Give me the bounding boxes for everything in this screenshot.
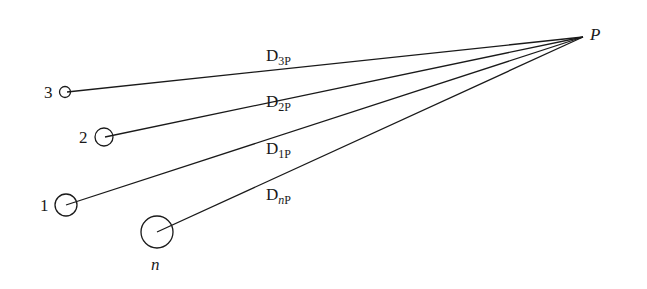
- distance-label-dnp: DnP: [266, 185, 291, 207]
- distance-sub-to: P: [284, 193, 291, 207]
- line-3-to-p: [67, 37, 583, 92]
- distance-sub-to: P: [284, 147, 291, 161]
- conductor-1-label: 1: [40, 196, 49, 215]
- point-p-label: P: [589, 25, 600, 44]
- distance-sub-to: P: [284, 54, 291, 68]
- line-1-to-p: [66, 37, 583, 205]
- conductor-n-label: n: [151, 255, 160, 274]
- line-2-to-p: [105, 37, 583, 137]
- distance-main: D: [266, 185, 278, 204]
- distance-label-d3p: D3P: [266, 46, 291, 68]
- conductor-3-label: 3: [44, 83, 53, 102]
- distance-main: D: [266, 139, 278, 158]
- line-n-to-p: [157, 37, 583, 232]
- distance-label-d2p: D2P: [266, 92, 291, 114]
- distance-main: D: [266, 46, 278, 65]
- distance-diagram: 3 2 1 n P D3P D2P D1P DnP: [0, 0, 647, 289]
- conductor-2-circle: [95, 128, 113, 146]
- conductor-2-label: 2: [79, 128, 88, 147]
- distance-main: D: [266, 92, 278, 111]
- distance-label-d1p: D1P: [266, 139, 291, 161]
- distance-sub-to: P: [284, 100, 291, 114]
